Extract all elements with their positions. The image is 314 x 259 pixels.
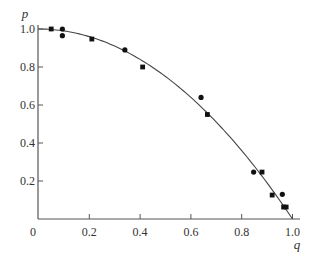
x-tick-label: 0.8 bbox=[234, 225, 249, 239]
circle-marker bbox=[60, 33, 65, 38]
circle-marker bbox=[280, 192, 285, 197]
square-marker bbox=[49, 27, 54, 32]
x-tick-label: 0.6 bbox=[183, 225, 198, 239]
y-tick-label: 1.0 bbox=[20, 22, 35, 36]
square-marker bbox=[260, 170, 265, 175]
square-marker bbox=[284, 205, 289, 210]
x-tick-label: 0.4 bbox=[133, 225, 148, 239]
square-marker bbox=[89, 37, 94, 42]
y-tick-label: 0.2 bbox=[20, 174, 35, 188]
fit-curve bbox=[39, 29, 293, 219]
x-ticks: 00.20.40.60.81.0 bbox=[30, 214, 300, 239]
x-tick-label: 0.2 bbox=[82, 225, 97, 239]
circle-marker bbox=[122, 47, 127, 52]
circle-marker bbox=[198, 95, 203, 100]
y-tick-label: 0.4 bbox=[20, 136, 35, 150]
circle-marker bbox=[60, 26, 65, 31]
y-tick-label: 0.6 bbox=[20, 98, 35, 112]
scatter-chart: 00.20.40.60.81.0 0.20.40.60.81.0 p q bbox=[0, 0, 314, 259]
square-marker bbox=[140, 65, 145, 70]
circle-marker bbox=[251, 169, 256, 174]
square-marker bbox=[205, 112, 210, 117]
y-ticks: 0.20.40.60.81.0 bbox=[20, 22, 43, 188]
x-tick-label: 0 bbox=[30, 225, 36, 239]
data-markers bbox=[49, 26, 289, 209]
square-marker bbox=[270, 193, 275, 198]
y-tick-label: 0.8 bbox=[20, 60, 35, 74]
axes bbox=[38, 25, 300, 219]
x-axis-title: q bbox=[294, 237, 301, 252]
y-axis-title: p bbox=[21, 6, 29, 21]
